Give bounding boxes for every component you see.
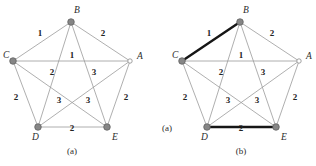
figure-caption-panel-a: (a): [67, 146, 77, 156]
edge-weight-label: 2: [270, 28, 275, 38]
edge-weight-label: 2: [124, 92, 129, 102]
edge-weight-label: 3: [261, 67, 266, 77]
vertex-label-b: B: [243, 5, 249, 15]
edge-weight-label: 2: [50, 67, 55, 77]
edge-weight-label: 3: [92, 67, 97, 77]
vertex-label-c: C: [172, 50, 179, 60]
figure-caption-panel-b: (b): [236, 146, 247, 156]
edge-weight-labels-layer: 12122223331212222333: [14, 28, 298, 133]
edges-layer: [13, 22, 299, 127]
graph-vertex-e: [104, 124, 111, 131]
figure-side-caption-panel-b: (a): [162, 123, 172, 133]
edge-weight-label: 2: [70, 123, 75, 133]
edge-weight-label: 1: [239, 50, 244, 60]
figure-root: 12122223331212222333 ABCDEABCDE (a)(b)(a…: [0, 0, 316, 166]
edge-weight-label: 2: [183, 92, 188, 102]
vertex-label-e: E: [111, 132, 118, 142]
edge-weight-label: 1: [70, 50, 75, 60]
graph-edge-bd: [38, 22, 71, 127]
edge-weight-label: 2: [293, 92, 298, 102]
edge-weight-label: 3: [57, 95, 62, 105]
graph-vertex-a: [128, 59, 132, 63]
edge-weight-label: 3: [255, 95, 260, 105]
vertex-label-a: A: [136, 51, 143, 61]
graph-vertex-b: [68, 19, 75, 26]
edge-weight-label: 2: [219, 67, 224, 77]
edge-weight-label: 3: [86, 95, 91, 105]
vertex-label-a: A: [305, 51, 312, 61]
graph-vertex-e: [273, 124, 280, 131]
graph-vertex-c: [10, 58, 17, 65]
edge-weight-label: 2: [14, 92, 19, 102]
graph-figure-canvas: 12122223331212222333 ABCDEABCDE (a)(b)(a…: [0, 0, 316, 166]
edge-weight-label: 1: [207, 28, 212, 38]
graph-vertex-d: [35, 124, 42, 131]
graph-edge-bd: [207, 22, 240, 127]
graph-vertex-a: [297, 59, 301, 63]
graph-vertex-d: [204, 124, 211, 131]
edge-weight-label: 1: [38, 28, 43, 38]
edge-weight-label: 2: [101, 28, 106, 38]
vertex-label-d: D: [31, 132, 39, 142]
vertex-label-b: B: [74, 5, 80, 15]
graph-vertex-c: [179, 58, 186, 65]
edge-weight-label: 3: [226, 95, 231, 105]
vertex-label-d: D: [200, 132, 208, 142]
edge-weight-label: 2: [239, 123, 244, 133]
vertex-label-c: C: [3, 50, 10, 60]
graph-vertex-b: [237, 19, 244, 26]
vertex-label-e: E: [280, 132, 287, 142]
